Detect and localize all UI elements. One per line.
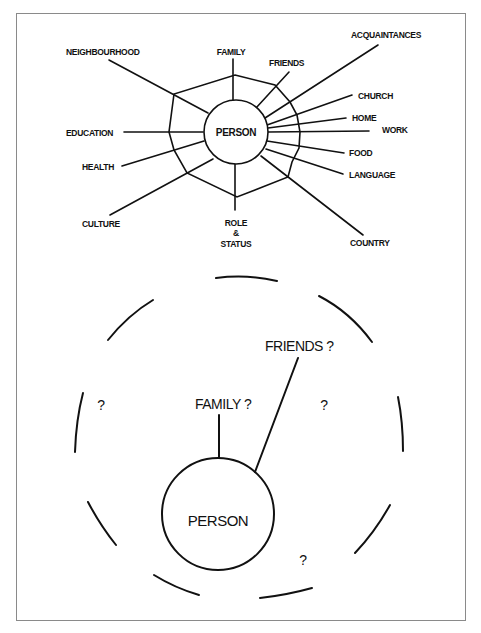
label-neighbourhood: NEIGHBOURHOOD (66, 47, 140, 57)
label-work: WORK (382, 125, 409, 135)
label-church: CHURCH (358, 91, 393, 101)
spoke-home (268, 118, 346, 128)
dashed-boundary-ring (75, 277, 403, 598)
person-label-bottom: PERSON (188, 512, 248, 529)
spoke-food (267, 141, 344, 153)
label-friends-question: FRIENDS ? (265, 338, 334, 354)
label-education: EDUCATION (66, 128, 113, 138)
person-label-top: PERSON (216, 127, 257, 138)
label-friends: FRIENDS (269, 58, 305, 68)
isolated-person-diagram: PERSON FAMILY ? FRIENDS ? ? ? ? (75, 277, 403, 598)
label-ampersand: & (233, 228, 239, 238)
spoke-acquaintances (265, 45, 378, 118)
label-family: FAMILY (217, 47, 246, 57)
label-food: FOOD (349, 148, 373, 158)
diagram-canvas: PERSON FAMILY FRIENDS ACQUAINTANCES CHUR… (0, 0, 481, 633)
unknown-marker-left: ? (97, 397, 105, 413)
spoke-health (122, 141, 204, 166)
unknown-marker-bottom: ? (299, 552, 307, 568)
label-language: LANGUAGE (349, 170, 396, 180)
spoke-neighbourhood (109, 60, 208, 113)
label-health: HEALTH (82, 162, 114, 172)
spoke-church (267, 95, 352, 125)
label-role: ROLE (225, 218, 248, 228)
spoke-country (261, 156, 363, 235)
unknown-marker-right: ? (320, 397, 328, 413)
spoke-culture (110, 159, 213, 215)
spoke-friends (256, 72, 289, 108)
friends-connector (255, 358, 298, 472)
label-status: STATUS (221, 239, 253, 249)
label-acquaintances: ACQUAINTANCES (351, 30, 422, 40)
label-family-question: FAMILY ? (195, 396, 252, 412)
spoke-language (266, 149, 343, 174)
label-culture: CULTURE (82, 219, 121, 229)
label-home: HOME (352, 113, 377, 123)
spoke-work (268, 131, 369, 132)
social-network-diagram: PERSON FAMILY FRIENDS ACQUAINTANCES CHUR… (66, 30, 422, 249)
label-country: COUNTRY (350, 238, 390, 248)
